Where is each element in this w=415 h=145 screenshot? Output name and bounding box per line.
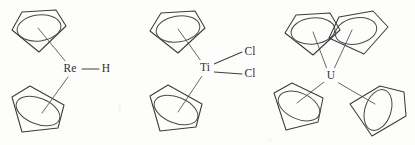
atom-label-u: U bbox=[327, 69, 336, 81]
structure-titanocene-dichloride: Ti Cl Cl bbox=[150, 11, 256, 131]
bond-u-cp-top-left bbox=[313, 32, 327, 69]
cp-ring-top-re bbox=[12, 10, 66, 52]
cp-ring-bottom-left-u bbox=[274, 83, 325, 130]
aromatic-ellipse bbox=[359, 86, 397, 134]
chemical-structures-svg: Re H Ti bbox=[0, 0, 415, 145]
bond-u-cp-top-right bbox=[334, 30, 352, 69]
cp-ring-bottom-right-u bbox=[350, 86, 406, 136]
cp-pentagon bbox=[350, 86, 406, 136]
cp-pentagon bbox=[150, 11, 205, 53]
aromatic-ellipse bbox=[274, 85, 325, 127]
bond-re-cp-top bbox=[38, 28, 66, 62]
bond-ti-cp-bottom bbox=[178, 76, 202, 112]
structure-rhenocene-hydride: Re H bbox=[12, 10, 110, 132]
cp-pentagon bbox=[12, 10, 66, 52]
structure-diagram-canvas: Re H Ti bbox=[0, 0, 415, 145]
cp-ring-top-left-u bbox=[285, 13, 340, 55]
atom-label-cl-lower: Cl bbox=[245, 67, 256, 79]
bond-ti-cl-upper bbox=[214, 52, 242, 64]
cp-ring-top-ti bbox=[150, 11, 205, 53]
structure-tetrakis-cp-uranium: U bbox=[274, 11, 406, 136]
atom-label-cl-upper: Cl bbox=[245, 45, 256, 57]
atom-label-h: H bbox=[102, 62, 110, 74]
cp-ring-bottom-ti bbox=[150, 85, 202, 131]
atom-label-re: Re bbox=[64, 62, 77, 74]
cp-pentagon bbox=[274, 83, 323, 130]
bond-ti-cl-lower bbox=[214, 72, 242, 74]
cp-pentagon bbox=[285, 13, 340, 55]
atom-label-ti: Ti bbox=[200, 61, 210, 73]
bond-ti-cp-top bbox=[178, 29, 201, 61]
